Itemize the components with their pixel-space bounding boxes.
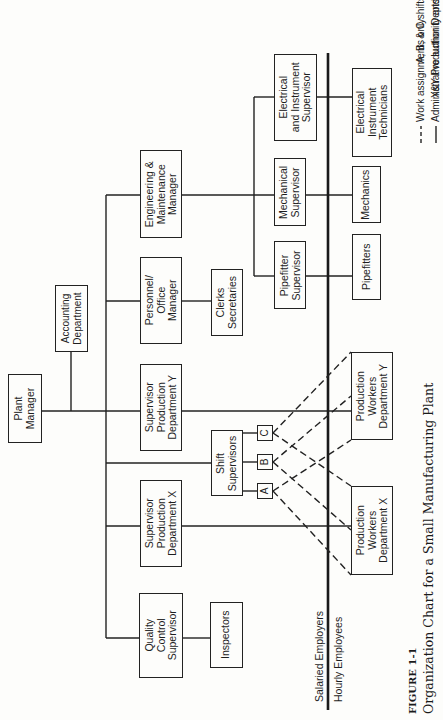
node-electrical-instrument-supervisor: Electrical and Instrument Supervisor — [274, 54, 317, 141]
node-supervisor-production-y: Supervisor Production Department Y — [140, 364, 182, 451]
legend-shifts-label: A, B, & C shifts — [415, 0, 426, 63]
node-pipefitters: Pipefitters — [352, 234, 381, 300]
node-label: Pipefitters — [361, 244, 373, 291]
node-production-workers-y: Production Workers Department Y — [351, 352, 393, 440]
node-label: Shift Supervisors — [216, 435, 239, 490]
node-label: Engineering & Maintenance Manager — [144, 161, 179, 227]
legend-depts-label: X&Y Production Depts. — [430, 0, 441, 98]
node-label: Production Workers Department X — [355, 498, 390, 563]
node-shift-a: A — [257, 483, 273, 499]
node-label: C — [260, 429, 270, 436]
node-electrical-instrument-technicians: Electrical Instrument Technicians — [352, 68, 392, 157]
hourly-employees-label: Hourly Employees — [332, 617, 344, 702]
node-label: Electrical and Instrument Supervisor — [278, 62, 313, 132]
node-inspectors: Inspectors — [210, 602, 243, 668]
node-shift-b: B — [257, 454, 273, 470]
node-label: Accounting Department — [60, 292, 83, 344]
salaried-employees-label: Salaried Employers — [313, 611, 325, 702]
node-label: Plant Manager — [14, 388, 37, 429]
legend-depts-text: X&Y Production Depts. — [430, 0, 441, 98]
node-pipefitter-supervisor: Pipefitter Supervisor — [274, 241, 306, 309]
node-label: A — [260, 488, 270, 495]
node-label: Pipefitter Supervisor — [279, 250, 302, 300]
legend-shifts-text: A, B, & C shifts — [415, 0, 426, 63]
node-label: Quality Control Supervisor — [144, 610, 179, 660]
node-quality-control-supervisor: Quality Control Supervisor — [139, 593, 183, 678]
node-engineering-maintenance-manager: Engineering & Maintenance Manager — [140, 150, 182, 238]
node-accounting-department: Accounting Department — [55, 285, 88, 352]
node-label: Mechanical Supervisor — [279, 165, 302, 218]
node-mechanical-supervisor: Mechanical Supervisor — [274, 158, 306, 226]
node-label: Supervisor Production Department X — [144, 491, 179, 556]
node-label: Inspectors — [221, 611, 233, 659]
node-supervisor-production-x: Supervisor Production Department X — [140, 480, 182, 567]
node-shift-supervisors: Shift Supervisors — [211, 430, 243, 496]
node-label: Clerks Secretaries — [216, 276, 239, 329]
node-label: B — [260, 459, 270, 466]
node-clerks-secretaries: Clerks Secretaries — [211, 269, 243, 336]
node-personnel-office-manager: Personnel/ Office Manager — [140, 257, 182, 344]
node-label: Electrical Instrument Technicians — [355, 85, 390, 140]
node-shift-c: C — [257, 425, 273, 441]
node-production-workers-x: Production Workers Department X — [351, 486, 393, 575]
figure-number: FIGURE 1-1 — [407, 647, 418, 714]
node-label: Supervisor Production Department Y — [144, 375, 179, 440]
node-label: Personnel/ Office Manager — [144, 275, 179, 325]
node-plant-manager: Plant Manager — [8, 374, 42, 443]
figure-title: Organization Chart for a Small Manufactu… — [421, 383, 436, 714]
node-label: Production Workers Department Y — [355, 364, 390, 429]
node-mechanics: Mechanics — [352, 166, 381, 223]
node-label: Mechanics — [361, 169, 373, 219]
